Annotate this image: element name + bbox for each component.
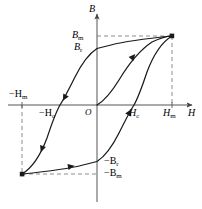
br-positive-label: Br: [74, 42, 82, 52]
bm-positive-label: Bm: [72, 30, 84, 40]
hm-positive-sub: m: [170, 112, 175, 120]
bm-negative-sub: m: [116, 172, 121, 180]
bm-negative-text: −B: [104, 167, 116, 178]
origin-label: O: [85, 108, 92, 117]
hc-positive-sub: c: [136, 112, 139, 120]
hc-negative-sub: c: [52, 112, 55, 120]
hm-negative-text: −H: [9, 88, 22, 99]
negative-saturation-point: [20, 172, 25, 177]
positive-saturation-point: [170, 34, 175, 39]
hm-negative-sub: m: [22, 93, 27, 101]
y-axis-label: B: [89, 4, 95, 14]
arrow-descending-lower-icon: [38, 145, 46, 153]
hysteresis-diagram-svg: [0, 0, 202, 209]
hm-negative-label: −Hm: [9, 89, 27, 99]
br-negative-label: −Br: [104, 156, 119, 166]
bm-negative-label: −Bm: [104, 168, 122, 178]
x-axis-label: H: [188, 108, 195, 118]
br-negative-sub: r: [116, 160, 118, 168]
br-negative-text: −B: [104, 155, 116, 166]
hc-negative-text: −H: [39, 107, 52, 118]
hm-positive-label: Hm: [163, 108, 176, 118]
hysteresis-loop-figure: B H O Bm Br −Br −Bm −Hm −Hc Hc Hm: [0, 0, 202, 209]
hc-negative-label: −Hc: [39, 108, 55, 118]
hc-positive-label: Hc: [129, 108, 139, 118]
arrow-descending-upper-icon: [60, 94, 69, 103]
